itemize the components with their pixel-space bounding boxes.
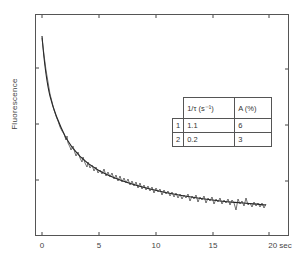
header-rate: 1/τ (s⁻¹) (184, 98, 235, 119)
rate-value: 1.1 (184, 119, 235, 133)
parameters-table: 1/τ (s⁻¹) A (%) 1 1.1 6 2 0.2 3 (172, 97, 272, 147)
header-amplitude: A (%) (235, 98, 272, 119)
y-axis-label: Fluorescence (10, 78, 19, 130)
x-tick-label-10: 10 (152, 241, 161, 250)
amplitude-value: 6 (235, 119, 272, 133)
row-number: 2 (173, 133, 184, 147)
rate-value: 0.2 (184, 133, 235, 147)
x-tick-label-5: 5 (97, 241, 101, 250)
table-corner-cell (173, 98, 184, 119)
table-row: 1 1.1 6 (173, 119, 272, 133)
x-tick-label-0: 0 (40, 241, 44, 250)
x-tick-label-15: 15 (209, 241, 218, 250)
table-header-row: 1/τ (s⁻¹) A (%) (173, 98, 272, 119)
row-number: 1 (173, 119, 184, 133)
x-tick-label-20-sec: 20 sec (268, 241, 292, 250)
amplitude-value: 3 (235, 133, 272, 147)
table-row: 2 0.2 3 (173, 133, 272, 147)
